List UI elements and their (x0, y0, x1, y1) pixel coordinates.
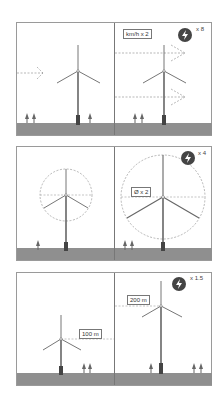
tree-icon (123, 240, 134, 250)
panel-rotor-diameter-after: Ø x 2 x 4 (114, 147, 212, 260)
wind-turbine-icon (17, 23, 115, 137)
wind-turbine-icon (115, 273, 213, 387)
panel-rotor-diameter-before (17, 147, 114, 260)
wind-turbine-icon (115, 147, 213, 262)
tree-icon (133, 113, 144, 123)
panel-hub-height: 100 m 200 m x 1.5 (16, 272, 212, 386)
tree-icon (82, 363, 92, 373)
lightning-bolt-icon (181, 151, 195, 165)
tree-icon (149, 363, 203, 373)
lightning-bolt-icon (172, 277, 186, 291)
dashed-arrow-icon (17, 67, 43, 79)
dashed-arrow-icon (115, 45, 185, 105)
power-multiplier: x 8 (196, 26, 204, 32)
wind-speed-label: km/h x 2 (123, 29, 152, 39)
hub-height-label-before: 100 m (79, 329, 102, 339)
panel-hub-height-before: 100 m (17, 273, 114, 385)
panel-wind-speed-before (17, 23, 114, 135)
tree-icon (25, 113, 92, 123)
panel-hub-height-after: 200 m x 1.5 (114, 273, 212, 385)
wind-turbine-icon (115, 23, 213, 137)
panel-rotor-diameter: Ø x 2 x 4 (16, 146, 212, 261)
rotor-diameter-label: Ø x 2 (131, 187, 151, 197)
tree-icon (36, 240, 40, 250)
power-multiplier: x 4 (198, 150, 206, 156)
power-multiplier: x 1.5 (190, 275, 203, 281)
panel-wind-speed: km/h x 2 x 8 (16, 22, 212, 136)
wind-turbine-icon (17, 147, 115, 262)
panel-wind-speed-after: km/h x 2 x 8 (114, 23, 212, 135)
hub-height-label-after: 200 m (127, 295, 150, 305)
lightning-bolt-icon (178, 28, 192, 42)
